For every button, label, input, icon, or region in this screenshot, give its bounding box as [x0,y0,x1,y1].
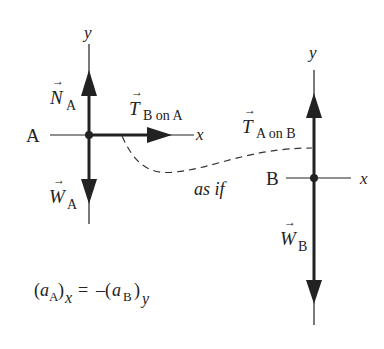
eq-equals: = [78,280,88,300]
a-tension-subscript: B on A [143,108,184,123]
a-normal-arrowhead-icon [81,70,97,96]
eq-rhs-var: a [112,280,121,300]
b-y-axis-label: y [307,43,317,62]
b-tension-subscript: A on B [256,126,296,141]
vector-arrow-icon: → [131,85,143,99]
constraint-equation: ( a A ) x = –( a B ) y [34,280,150,308]
particle-b-diagram: y x B → T A on B → W B [242,43,368,325]
b-tension-arrowhead-icon [306,93,322,118]
vector-arrow-icon: → [284,215,296,229]
a-tension-symbol: T [129,98,141,119]
eq-lhs-component: x [64,289,72,306]
a-normal-force-symbol: N [49,87,64,108]
b-weight-arrowhead-icon [306,280,322,304]
a-y-axis-label: y [82,23,92,42]
particle-a-dot [85,131,93,139]
a-weight-subscript: A [67,197,78,212]
eq-rhs-open: –( [95,280,111,301]
vector-arrow-icon: → [53,173,65,187]
particle-a-diagram: y x A → N A → W A → T B on A [26,23,204,224]
a-normal-force-subscript: A [66,98,77,113]
a-x-axis-label: x [195,125,204,144]
b-tension-symbol: T [242,116,254,137]
vector-arrow-icon: → [52,74,64,88]
particle-b-dot [310,174,318,182]
eq-rhs-component: y [140,290,150,308]
a-weight-arrowhead-icon [81,179,97,204]
eq-lhs-close: ) [58,280,64,301]
as-if-label: as if [194,179,228,199]
free-body-diagram: y x A → N A → W A → T B on A as if y x B [0,0,384,349]
a-weight-symbol: W [49,186,67,207]
eq-lhs-var: a [40,280,49,300]
eq-rhs-sub: B [123,289,132,304]
a-tension-arrowhead-icon [147,127,172,143]
b-weight-subscript: B [298,239,307,254]
vector-arrow-icon: → [244,103,256,117]
particle-a-label: A [26,125,40,146]
b-weight-symbol: W [280,228,298,249]
b-x-axis-label: x [359,169,368,188]
particle-b-label: B [266,168,279,189]
eq-rhs-close: ) [134,280,140,301]
